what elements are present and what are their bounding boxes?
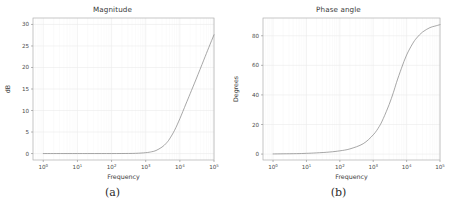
phase-plot-canvas: 100101102103104105020406080FrequencyDegr… [226, 0, 451, 185]
svg-text:40: 40 [252, 92, 260, 98]
svg-text:30: 30 [22, 21, 30, 27]
magnitude-plot-panel: Magnitude 100101102103104105051015202530… [0, 0, 225, 185]
svg-text:103: 103 [368, 163, 378, 170]
subfigure-phase: Phase angle 100101102103104105020406080F… [226, 0, 451, 212]
svg-text:15: 15 [22, 86, 30, 92]
svg-text:Frequency: Frequency [107, 173, 140, 181]
phase-plot-panel: Phase angle 100101102103104105020406080F… [226, 0, 451, 185]
svg-text:0: 0 [255, 151, 259, 157]
subfigure-caption-a: (a) [0, 186, 225, 199]
svg-text:104: 104 [175, 163, 185, 170]
svg-text:60: 60 [252, 62, 260, 68]
svg-text:101: 101 [302, 163, 312, 170]
svg-text:20: 20 [252, 122, 260, 128]
svg-text:103: 103 [141, 163, 151, 170]
magnitude-plot-canvas: 100101102103104105051015202530Frequencyd… [0, 0, 225, 185]
svg-text:80: 80 [252, 33, 260, 39]
subfigure-magnitude: Magnitude 100101102103104105051015202530… [0, 0, 225, 212]
bode-plot-figure: Magnitude 100101102103104105051015202530… [0, 0, 451, 212]
svg-text:20: 20 [22, 64, 30, 70]
svg-text:Degrees: Degrees [232, 76, 240, 102]
svg-text:105: 105 [435, 163, 445, 170]
svg-text:10: 10 [22, 108, 30, 114]
svg-text:Frequency: Frequency [335, 173, 368, 181]
svg-text:100: 100 [38, 163, 48, 170]
svg-text:104: 104 [402, 163, 412, 170]
svg-text:102: 102 [107, 163, 117, 170]
svg-text:105: 105 [209, 163, 219, 170]
svg-text:25: 25 [22, 43, 30, 49]
svg-text:dB: dB [4, 85, 11, 93]
svg-text:0: 0 [25, 151, 29, 157]
svg-text:5: 5 [25, 129, 29, 135]
svg-text:100: 100 [268, 163, 278, 170]
svg-text:101: 101 [73, 163, 83, 170]
subfigure-caption-b: (b) [226, 186, 451, 199]
svg-text:102: 102 [335, 163, 345, 170]
